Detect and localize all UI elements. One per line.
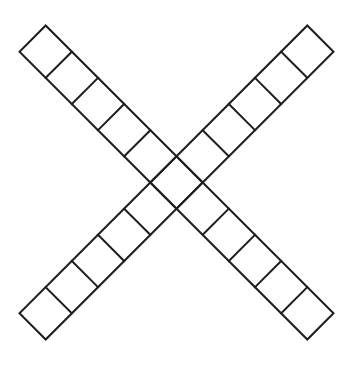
strip-rung bbox=[124, 130, 150, 156]
strip-rung bbox=[124, 209, 150, 235]
strip-rung bbox=[150, 183, 176, 209]
strip-rung bbox=[98, 104, 124, 130]
strip-rung bbox=[229, 104, 255, 130]
figure-canvas bbox=[0, 0, 353, 365]
strip-ne-sw bbox=[20, 26, 334, 340]
strip-rung bbox=[229, 235, 255, 261]
strip-rung bbox=[203, 209, 229, 235]
strip-rung bbox=[281, 52, 307, 78]
strip-rung bbox=[46, 52, 72, 78]
strip-rung bbox=[177, 156, 203, 182]
strip-rung bbox=[203, 130, 229, 156]
strip-rung bbox=[255, 261, 281, 287]
x-figure-svg bbox=[0, 0, 353, 365]
strip-outline bbox=[20, 26, 334, 340]
strip-rung bbox=[72, 78, 98, 104]
strip-rung bbox=[281, 287, 307, 313]
strip-rung bbox=[46, 287, 72, 313]
strip-outline bbox=[20, 26, 334, 340]
strip-rung bbox=[72, 261, 98, 287]
strip-nw-se bbox=[20, 26, 334, 340]
strip-rung bbox=[255, 78, 281, 104]
strip-rung bbox=[98, 235, 124, 261]
